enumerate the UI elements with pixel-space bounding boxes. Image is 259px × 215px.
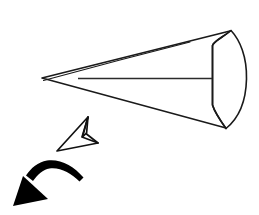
cone-body-shape: [42, 31, 230, 128]
cone-rotation-diagram: [0, 0, 259, 215]
rotation-arrow-tail: [26, 160, 84, 181]
rotation-arrowhead: [13, 176, 48, 206]
diagram-canvas: [0, 0, 259, 215]
direction-arrowhead: [57, 117, 98, 151]
cone-base-face: [213, 31, 247, 129]
